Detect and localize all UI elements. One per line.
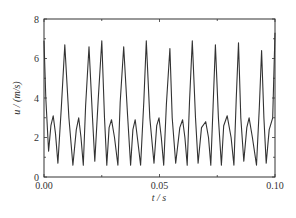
y-tick-label: 2 <box>34 132 39 143</box>
x-tick-label: 0.10 <box>266 180 284 191</box>
time-series-chart: 02468 0.000.050.10 u / (m/s) t / s <box>0 0 296 218</box>
x-axis-title: t / s <box>152 192 167 203</box>
x-tick-label: 0.05 <box>151 180 169 191</box>
x-tick-labels: 0.000.050.10 <box>35 180 284 191</box>
y-tick-label: 4 <box>34 93 39 104</box>
y-tick-labels: 02468 <box>34 14 39 183</box>
y-axis-title: u / (m/s) <box>11 81 23 115</box>
y-tick-label: 6 <box>34 53 39 64</box>
velocity-series-line <box>44 33 275 165</box>
y-tick-label: 8 <box>34 14 39 25</box>
x-tick-label: 0.00 <box>35 180 53 191</box>
